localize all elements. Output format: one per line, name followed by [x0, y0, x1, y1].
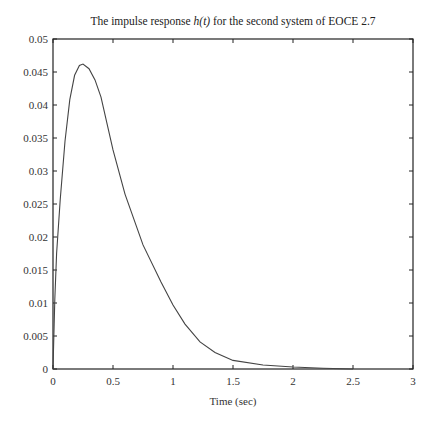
y-axis-ticks: 00.0050.010.0150.020.0250.030.0350.040.0…: [23, 33, 413, 375]
x-tick-label: 1.5: [226, 375, 240, 387]
x-axis-ticks: 00.511.522.53: [50, 39, 416, 387]
y-tick-label: 0.05: [29, 33, 49, 45]
x-axis-label: Time (sec): [210, 395, 257, 408]
y-tick-label: 0.005: [23, 330, 48, 342]
impulse-response-curve: [53, 64, 353, 369]
y-tick-label: 0.02: [29, 231, 48, 243]
y-tick-label: 0.03: [29, 165, 49, 177]
x-tick-label: 1: [170, 375, 176, 387]
y-tick-label: 0.045: [23, 66, 48, 78]
y-tick-label: 0.035: [23, 132, 48, 144]
y-tick-label: 0.015: [23, 264, 48, 276]
y-tick-label: 0: [43, 363, 49, 375]
impulse-response-chart: The impulse response h(t) for the second…: [0, 0, 435, 422]
x-tick-label: 2.5: [346, 375, 360, 387]
y-tick-label: 0.04: [29, 99, 49, 111]
x-tick-label: 3: [410, 375, 416, 387]
y-tick-label: 0.025: [23, 198, 48, 210]
y-tick-label: 0.01: [29, 297, 48, 309]
plot-area-frame: [53, 39, 413, 369]
x-tick-label: 0.5: [106, 375, 120, 387]
chart-title: The impulse response h(t) for the second…: [90, 15, 375, 28]
x-tick-label: 0: [50, 375, 56, 387]
x-tick-label: 2: [290, 375, 296, 387]
